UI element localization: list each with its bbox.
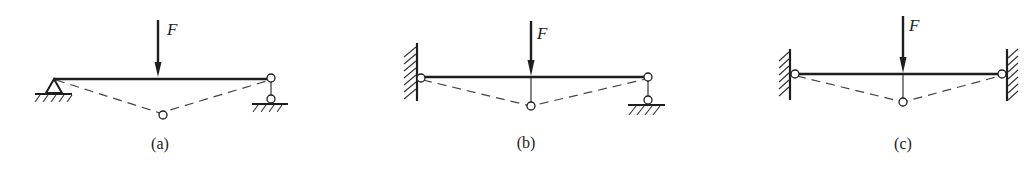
- load-label-b: F: [536, 24, 548, 43]
- beam-mechanism-figure: F (a): [0, 0, 1036, 171]
- pin-support-icon: [35, 79, 72, 102]
- load-label-c: F: [908, 16, 920, 35]
- hinge-node-c-right: [998, 70, 1006, 78]
- load-arrow-a: [155, 20, 162, 77]
- caption-a: (a): [151, 135, 169, 153]
- hinge-node-b-left: [417, 74, 425, 82]
- load-arrow-b: [528, 21, 535, 76]
- roller-link-support-icon: [628, 73, 665, 115]
- panel-b: F (b): [404, 21, 665, 152]
- load-label-a: F: [166, 20, 178, 39]
- hinge-node-c-mid: [899, 98, 907, 106]
- fixed-wall-icon: [404, 43, 417, 101]
- collapse-line-c: [797, 76, 1000, 102]
- load-arrow-c: [900, 16, 907, 73]
- caption-c: (c): [894, 135, 912, 153]
- fixed-wall-icon: [1007, 49, 1018, 101]
- collapse-line-b: [423, 79, 646, 106]
- panel-a: F (a): [35, 20, 288, 153]
- collapse-line-a: [56, 80, 270, 113]
- hinge-node-c-left: [791, 70, 799, 78]
- hinge-node-a: [159, 111, 167, 119]
- panel-c: F (c): [779, 16, 1018, 153]
- fixed-wall-icon: [779, 49, 790, 100]
- caption-b: (b): [517, 134, 536, 152]
- hinge-node-b-mid: [527, 102, 535, 110]
